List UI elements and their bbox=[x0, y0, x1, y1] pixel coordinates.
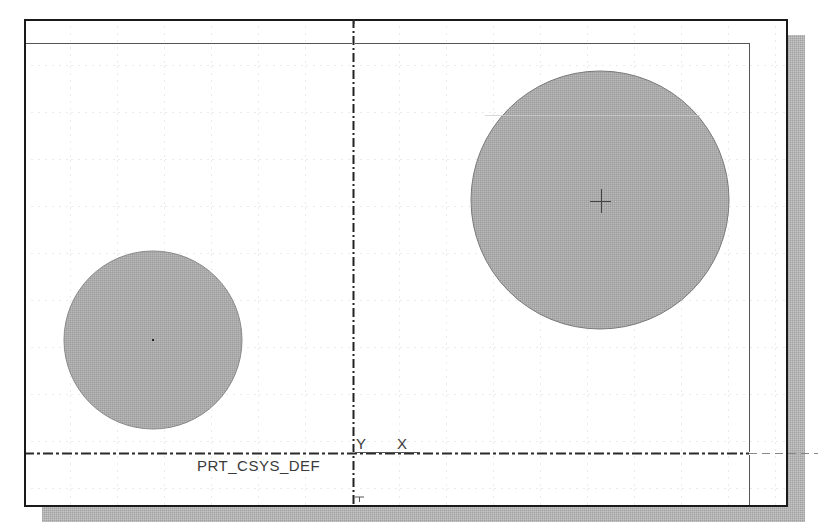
x-axis-label: X bbox=[397, 436, 408, 451]
sketch-canvas[interactable] bbox=[0, 0, 821, 531]
small-circle[interactable] bbox=[64, 251, 242, 429]
graphics-window[interactable]: PRT_CSYS_DEF Y X ' bbox=[0, 0, 821, 531]
small-circle-center-point bbox=[152, 339, 154, 341]
top-glyph-fragment: ' bbox=[308, 0, 311, 8]
large-circle[interactable] bbox=[471, 71, 729, 329]
y-axis-label: Y bbox=[356, 436, 367, 451]
csys-name-label: PRT_CSYS_DEF bbox=[197, 458, 320, 473]
